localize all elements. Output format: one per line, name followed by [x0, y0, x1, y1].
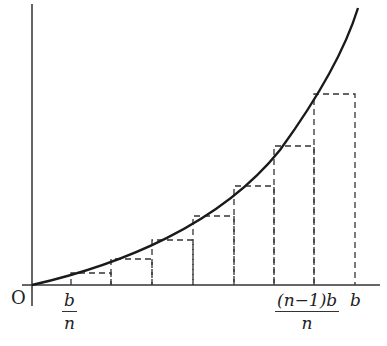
- inscribed-rectangles: [71, 94, 355, 285]
- fraction-numerator: b: [62, 292, 77, 312]
- fraction-numerator: (n−1)b: [275, 292, 339, 312]
- tick-label-b: b: [350, 292, 361, 309]
- tick-label-b-over-n: b n: [62, 292, 77, 332]
- origin-label: O: [11, 289, 26, 307]
- tick-label-n-minus-1-b-over-n: (n−1)b n: [275, 292, 339, 332]
- fraction-denominator: n: [62, 312, 77, 332]
- fraction-denominator: n: [275, 312, 339, 332]
